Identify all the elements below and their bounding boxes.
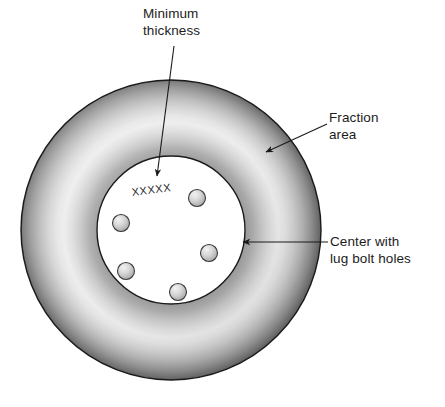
lug-bolt-hole-lower-left — [118, 263, 135, 280]
rotor-illustration — [0, 0, 445, 407]
rotor-body — [21, 80, 321, 380]
label-minimum-thickness: Minimum thickness — [143, 6, 200, 39]
lug-bolt-hole-left — [113, 215, 130, 232]
lug-bolt-hole-top-right — [189, 190, 206, 207]
label-center-with-lug-bolt-holes: Center with lug bolt holes — [330, 234, 411, 267]
rotor-diagram: Minimum thickness Fraction area Center w… — [0, 0, 445, 407]
lug-bolt-hole-right — [201, 245, 218, 262]
label-fraction-area: Fraction area — [329, 110, 379, 143]
lug-bolt-hole-bottom — [170, 284, 187, 301]
